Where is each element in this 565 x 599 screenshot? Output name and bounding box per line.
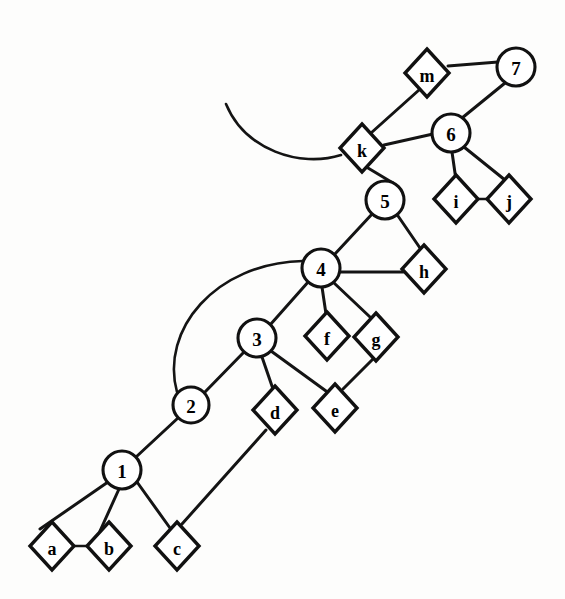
circle-shape-1 xyxy=(103,451,141,489)
circle-shape-2 xyxy=(173,387,209,423)
node-circle-4[interactable]: 4 xyxy=(302,249,340,287)
diamond-shape-c xyxy=(155,522,199,570)
edge-3-d xyxy=(262,357,273,389)
node-diamond-m[interactable]: m xyxy=(405,49,449,97)
node-circle-7[interactable]: 7 xyxy=(497,48,535,86)
edge-k-open-end xyxy=(226,104,341,159)
node-diamond-c[interactable]: c xyxy=(155,522,199,570)
node-circle-1[interactable]: 1 xyxy=(103,451,141,489)
edge-m-7 xyxy=(448,62,498,66)
node-diamond-h[interactable]: h xyxy=(402,245,446,293)
node-circle-3[interactable]: 3 xyxy=(238,319,276,357)
edge-4-f xyxy=(322,287,326,314)
diamond-shape-i xyxy=(434,175,478,223)
diagram-root: 1234567abcdefghijkm xyxy=(0,0,565,599)
node-diamond-d[interactable]: d xyxy=(253,386,297,434)
node-diamond-b[interactable]: b xyxy=(87,522,131,570)
node-circle-2[interactable]: 2 xyxy=(173,387,209,423)
circle-shape-7 xyxy=(497,48,535,86)
edge-4-5 xyxy=(334,213,373,255)
diamond-shape-b xyxy=(87,522,131,570)
edge-c-d xyxy=(182,430,266,524)
node-diamond-e[interactable]: e xyxy=(313,384,357,432)
diamond-shape-g xyxy=(354,313,398,361)
graph-canvas: 1234567abcdefghijkm xyxy=(0,0,565,599)
circle-shape-4 xyxy=(302,249,340,287)
diamond-shape-j xyxy=(487,175,531,223)
edge-4-g xyxy=(333,282,370,317)
edge-1-2 xyxy=(136,418,178,457)
edge-1-c xyxy=(137,482,170,528)
node-circle-6[interactable]: 6 xyxy=(432,114,470,152)
diamond-shape-h xyxy=(402,245,446,293)
node-diamond-j[interactable]: j xyxy=(487,175,531,223)
node-diamond-g[interactable]: g xyxy=(354,313,398,361)
node-diamond-f[interactable]: f xyxy=(305,312,349,360)
edge-6-j xyxy=(464,147,505,180)
circle-shape-5 xyxy=(366,181,404,219)
diamond-shape-d xyxy=(253,386,297,434)
edge-k-m xyxy=(371,90,419,133)
node-circle-5[interactable]: 5 xyxy=(366,181,404,219)
edge-6-7 xyxy=(462,83,505,118)
edge-2-3 xyxy=(204,351,245,393)
edge-e-g xyxy=(343,359,373,389)
edge-3-e xyxy=(271,351,326,391)
diamond-shape-a xyxy=(30,522,74,570)
circle-shape-6 xyxy=(432,114,470,152)
edge-5-h xyxy=(396,213,420,248)
diamond-shape-f xyxy=(305,312,349,360)
node-diamond-a[interactable]: a xyxy=(30,522,74,570)
circle-shape-3 xyxy=(238,319,276,357)
node-diamond-k[interactable]: k xyxy=(340,124,384,172)
edge-3-4 xyxy=(270,281,309,325)
diamond-shape-e xyxy=(313,384,357,432)
diamond-shape-k xyxy=(340,124,384,172)
edge-2-4 xyxy=(174,261,303,392)
node-diamond-i[interactable]: i xyxy=(434,175,478,223)
diamond-shape-m xyxy=(405,49,449,97)
edge-k-6 xyxy=(384,134,433,145)
